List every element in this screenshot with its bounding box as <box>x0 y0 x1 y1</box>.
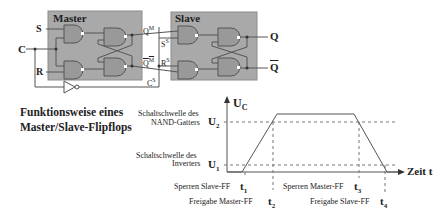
event-3-time: t3 <box>354 181 361 195</box>
qm-label: QM <box>143 25 154 36</box>
event-2-label: Freigabe Master-FF <box>189 198 253 206</box>
y-axis-label: UC <box>233 97 247 112</box>
inverter-gate <box>64 81 75 93</box>
rs-label: RS <box>161 57 170 68</box>
event-4-time: t4 <box>380 196 387 210</box>
event-2-time: t2 <box>268 196 275 210</box>
input-r-label: R <box>36 67 43 77</box>
qm-bar-label: QM <box>143 57 154 68</box>
master-label: Master <box>53 13 87 24</box>
title-line-2: Master/Slave-Flipflops <box>20 122 132 134</box>
master-input-gate-r <box>64 61 83 79</box>
slave-latch-gate-2 <box>218 58 240 76</box>
master-latch-gate-2 <box>104 58 126 76</box>
input-c-label: C <box>18 44 26 55</box>
master-input-gate-s <box>64 25 83 43</box>
event-3-label: Sperren Master-FF <box>283 183 344 191</box>
event-1-label: Sperren Slave-FF <box>174 183 230 191</box>
title-line-1: Funktionsweise eines <box>20 107 123 119</box>
u1-desc-2: Inverters <box>172 160 200 168</box>
event-4-label: Freigabe Slave-FF <box>310 198 369 206</box>
u2-desc-1: Schaltschwelle des <box>138 110 199 118</box>
output-q-label: Q <box>270 31 279 42</box>
event-1-time: t1 <box>240 181 247 195</box>
output-qbar-label: Q <box>270 62 279 73</box>
slave-label: Slave <box>175 13 200 24</box>
ss-label: SS <box>161 38 169 49</box>
x-axis-label: Zeit t <box>407 166 432 177</box>
input-s-label: S <box>36 24 42 34</box>
master-latch-gate-1 <box>104 28 126 46</box>
u2-symbol: U2 <box>208 116 219 130</box>
clock-waveform <box>227 114 398 172</box>
slave-latch-gate-1 <box>218 28 240 46</box>
u1-symbol: U1 <box>208 159 219 173</box>
cs-label: CS <box>147 77 156 88</box>
u2-desc-2: NAND-Gatters <box>151 119 200 127</box>
